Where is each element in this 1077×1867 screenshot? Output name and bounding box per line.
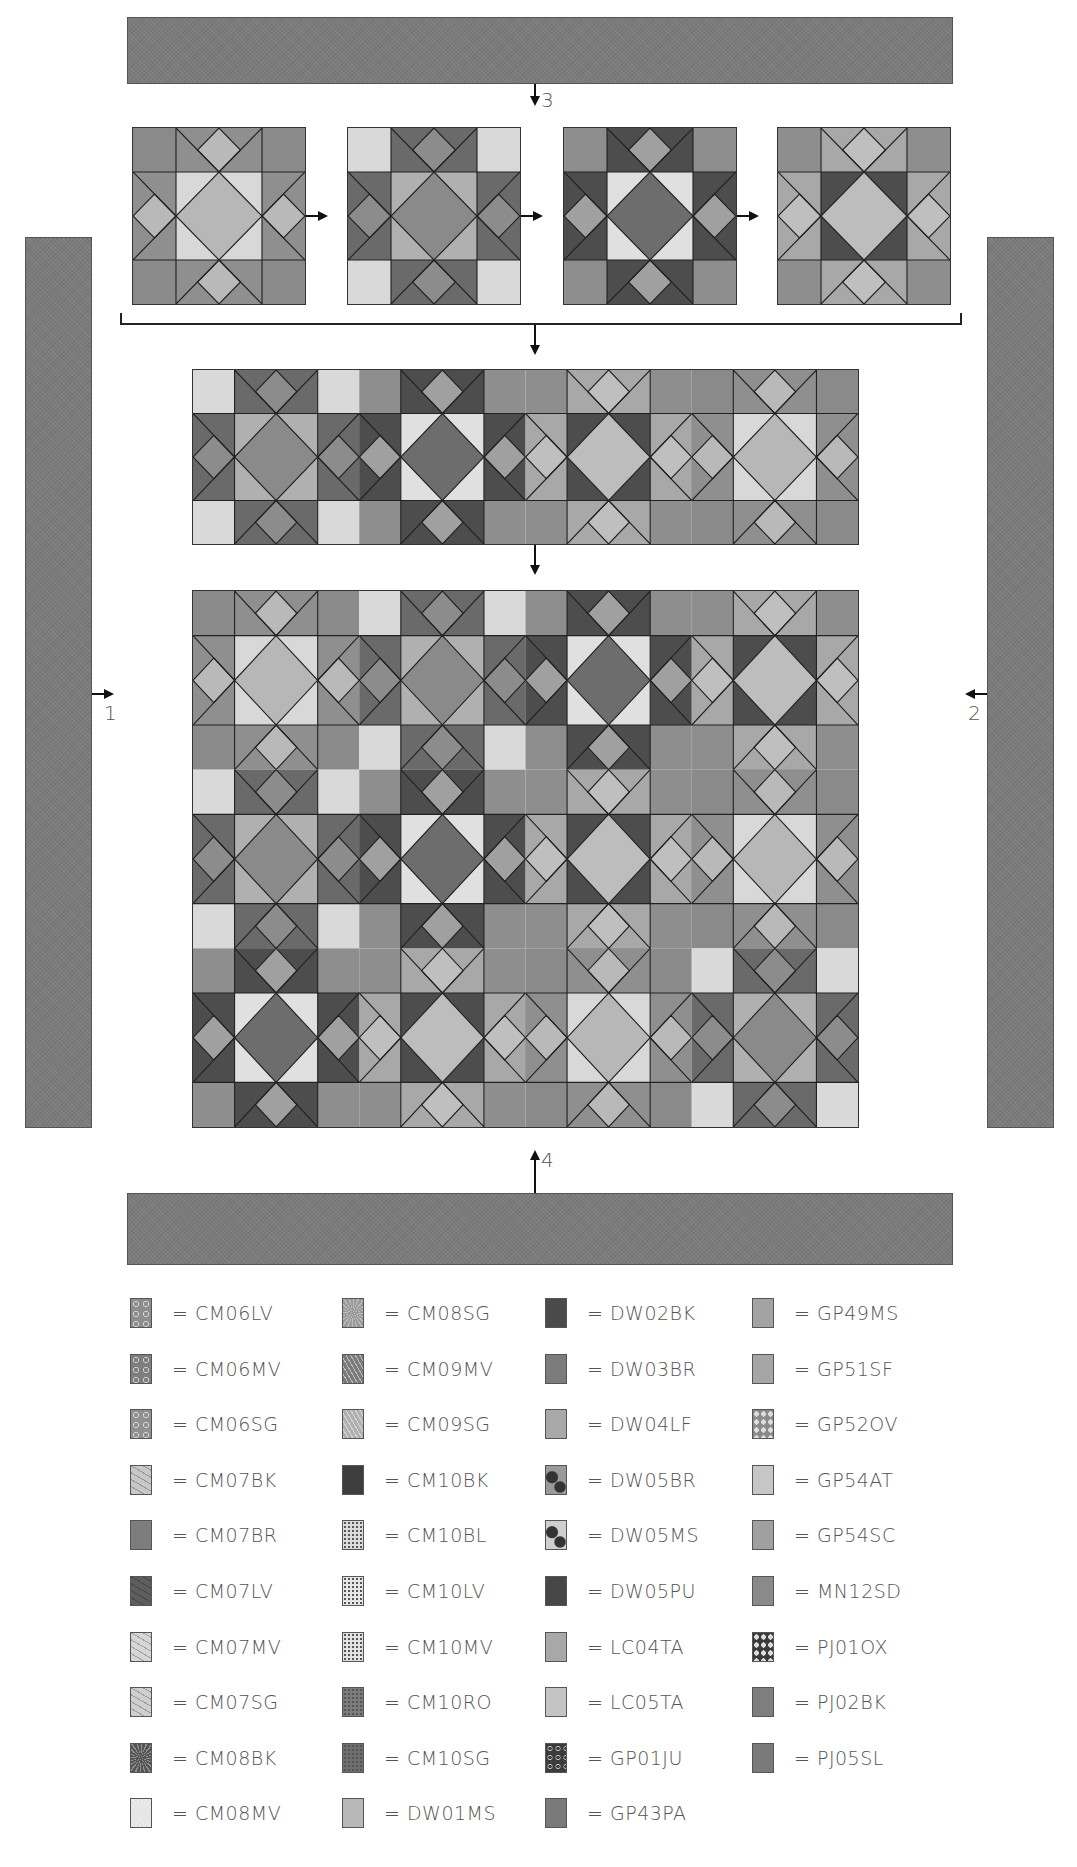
legend-item: = DW02BK xyxy=(545,1298,695,1328)
quilt-block-4 xyxy=(777,127,951,305)
fabric-swatch-icon xyxy=(130,1409,152,1439)
legend-item: = DW05PU xyxy=(545,1576,696,1606)
arrow-left-2-border xyxy=(975,693,987,695)
arrow-head-right-icon xyxy=(533,211,543,221)
legend-item: = DW05BR xyxy=(545,1465,696,1495)
legend-label: = CM07SG xyxy=(172,1691,279,1713)
legend-label: = CM10SG xyxy=(384,1747,491,1769)
fabric-swatch-icon xyxy=(342,1354,364,1384)
legend-item: = GP51SF xyxy=(752,1354,893,1384)
legend-label: = MN12SD xyxy=(794,1580,901,1602)
left-border xyxy=(25,237,92,1128)
fabric-swatch-icon xyxy=(342,1298,364,1328)
legend-label: = CM06LV xyxy=(172,1302,273,1324)
right-border xyxy=(987,237,1054,1128)
legend-item: = CM06MV xyxy=(130,1354,281,1384)
fabric-swatch-icon xyxy=(342,1409,364,1439)
legend-item: = CM07LV xyxy=(130,1576,273,1606)
arrow-head-right-icon xyxy=(318,211,328,221)
legend-label: = GP49MS xyxy=(794,1302,899,1324)
arrow-down-bracket xyxy=(534,325,536,347)
fabric-swatch-icon xyxy=(752,1354,774,1384)
legend-item: = CM10LV xyxy=(342,1576,485,1606)
legend-label: = GP01JU xyxy=(587,1747,683,1769)
legend-label: = CM06MV xyxy=(172,1358,281,1380)
arrow-up-4 xyxy=(534,1158,536,1193)
legend-item: = PJ05SL xyxy=(752,1743,884,1773)
legend-label: = CM09MV xyxy=(384,1358,493,1380)
fabric-swatch-icon xyxy=(752,1687,774,1717)
legend-label: = CM10RO xyxy=(384,1691,492,1713)
step-label-1: 1 xyxy=(104,703,117,723)
legend-label: = CM07BR xyxy=(172,1524,277,1546)
legend-item: = CM10MV xyxy=(342,1632,493,1662)
arrow-head-down-icon xyxy=(530,565,540,575)
quilt-center xyxy=(192,590,859,1128)
legend-item: = MN12SD xyxy=(752,1576,901,1606)
legend-label: = CM06SG xyxy=(172,1413,279,1435)
fabric-swatch-icon xyxy=(130,1520,152,1550)
fabric-swatch-icon xyxy=(130,1298,152,1328)
fabric-swatch-icon xyxy=(130,1465,152,1495)
legend-item: = CM08MV xyxy=(130,1798,281,1828)
legend-label: = PJ02BK xyxy=(794,1691,886,1713)
fabric-swatch-icon xyxy=(752,1632,774,1662)
legend-label: = CM07MV xyxy=(172,1636,281,1658)
legend-label: = GP52OV xyxy=(794,1413,898,1435)
fabric-swatch-icon xyxy=(130,1687,152,1717)
legend-item: = DW01MS xyxy=(342,1798,496,1828)
legend-item: = CM10SG xyxy=(342,1743,491,1773)
legend-item: = CM07MV xyxy=(130,1632,281,1662)
arrow-down-row xyxy=(534,545,536,567)
fabric-swatch-icon xyxy=(752,1465,774,1495)
legend-label: = GP54SC xyxy=(794,1524,896,1546)
legend-label: = CM10MV xyxy=(384,1636,493,1658)
legend-label: = DW05BR xyxy=(587,1469,696,1491)
fabric-swatch-icon xyxy=(545,1687,567,1717)
fabric-swatch-icon xyxy=(130,1798,152,1828)
legend-item: = CM10BK xyxy=(342,1465,489,1495)
arrow-head-right-icon xyxy=(749,211,759,221)
legend-item: = PJ02BK xyxy=(752,1687,886,1717)
legend-label: = DW03BR xyxy=(587,1358,696,1380)
fabric-swatch-icon xyxy=(545,1743,567,1773)
step-label-2: 2 xyxy=(968,703,981,723)
legend-label: = CM07BK xyxy=(172,1469,277,1491)
legend-item: = GP54SC xyxy=(752,1520,896,1550)
legend-item: = GP54AT xyxy=(752,1465,893,1495)
arrow-head-right-icon xyxy=(104,689,114,699)
fabric-swatch-icon xyxy=(342,1743,364,1773)
fabric-swatch-icon xyxy=(130,1354,152,1384)
fabric-swatch-icon xyxy=(342,1632,364,1662)
arrow-head-down-icon xyxy=(530,96,540,106)
legend-item: = DW03BR xyxy=(545,1354,696,1384)
legend-label: = DW02BK xyxy=(587,1302,695,1324)
legend-label: = CM07LV xyxy=(172,1580,273,1602)
legend-label: = DW05MS xyxy=(587,1524,699,1546)
fabric-swatch-icon xyxy=(545,1465,567,1495)
fabric-swatch-icon xyxy=(545,1354,567,1384)
quilt-block-2 xyxy=(347,127,521,305)
top-border xyxy=(127,17,953,84)
legend-label: = GP51SF xyxy=(794,1358,893,1380)
legend-label: = LC05TA xyxy=(587,1691,684,1713)
fabric-swatch-icon xyxy=(545,1409,567,1439)
legend-label: = DW05PU xyxy=(587,1580,696,1602)
legend-item: = CM08BK xyxy=(130,1743,277,1773)
assembled-row xyxy=(192,369,859,545)
fabric-swatch-icon xyxy=(752,1576,774,1606)
legend-label: = CM10LV xyxy=(384,1580,485,1602)
fabric-swatch-icon xyxy=(342,1465,364,1495)
legend-item: = CM06LV xyxy=(130,1298,273,1328)
quilt-block-1 xyxy=(132,127,306,305)
fabric-swatch-icon xyxy=(545,1632,567,1662)
legend-label: = DW01MS xyxy=(384,1802,496,1824)
legend-item: = CM10BL xyxy=(342,1520,487,1550)
fabric-swatch-icon xyxy=(545,1798,567,1828)
quilt-block-3 xyxy=(563,127,737,305)
fabric-swatch-icon xyxy=(752,1409,774,1439)
legend-label: = PJ01OX xyxy=(794,1636,888,1658)
legend-item: = CM09MV xyxy=(342,1354,493,1384)
legend-label: = CM08SG xyxy=(384,1302,491,1324)
legend-item: = CM07SG xyxy=(130,1687,279,1717)
